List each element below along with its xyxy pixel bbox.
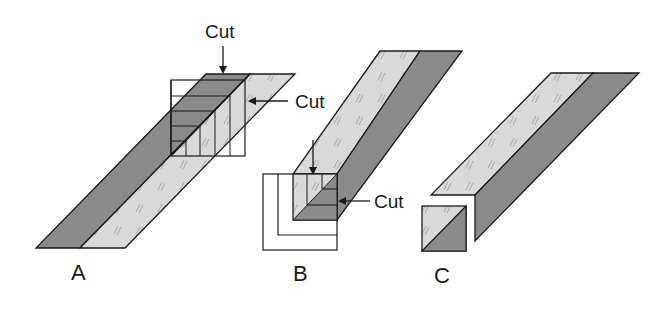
cut-label-a-top: Cut <box>205 21 235 42</box>
panel-label-b: B <box>293 261 308 286</box>
panel-c: C <box>422 73 639 288</box>
cut-label-b-side: Cut <box>374 191 404 212</box>
panel-label-a: A <box>71 260 86 285</box>
panel-label-c: C <box>434 263 450 288</box>
cut-label-a-side: Cut <box>295 91 325 112</box>
strip-piecing-diagram: Cut Cut A Cut Cut B C <box>0 0 666 312</box>
